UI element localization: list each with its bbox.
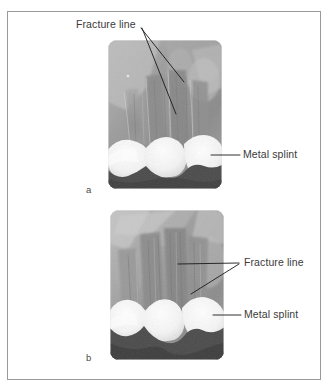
fracture-line-label-a: Fracture line [76,18,136,30]
fracture-line-label-b: Fracture line [244,256,304,268]
radiograph-a-svg [108,40,222,189]
panel-letter-b: b [86,352,91,363]
panel-letter-a: a [86,184,91,195]
radiograph-panel-b [110,210,224,360]
radiograph-b-svg [110,210,224,360]
metal-splint-label-a: Metal splint [243,148,297,160]
radiograph-panel-a [108,40,222,189]
metal-splint-label-b: Metal splint [244,308,298,320]
figure-root: Fracture line Metal splint Fracture line… [0,0,332,391]
